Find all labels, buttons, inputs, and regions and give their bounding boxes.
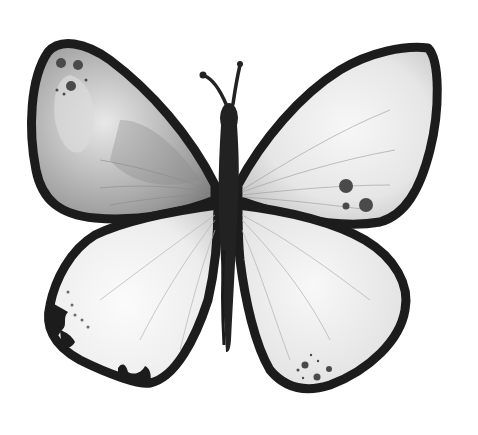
left-forewing [32, 44, 215, 219]
antennae [200, 61, 244, 104]
left-hindwing [48, 205, 218, 383]
butterfly-illustration [0, 0, 478, 435]
right-hindwing [238, 205, 406, 389]
right-forewing [238, 47, 437, 224]
butterfly-body [219, 103, 239, 352]
